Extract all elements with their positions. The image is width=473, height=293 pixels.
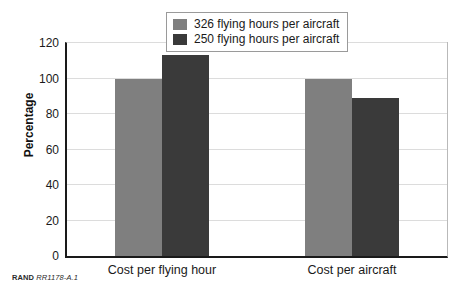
chart-legend: 326 flying hours per aircraft250 flying … — [166, 12, 348, 52]
y-axis-tick-label: 20 — [0, 214, 59, 228]
y-axis-tick-label: 40 — [0, 178, 59, 192]
legend-swatch-icon — [173, 34, 187, 45]
legend-label: 326 flying hours per aircraft — [194, 17, 339, 32]
bar-chart-figure: 020406080100120 Percentage Cost per flyi… — [0, 0, 473, 293]
plot-area — [65, 42, 448, 258]
figure-credit: RAND RR1178-A.1 — [12, 273, 78, 282]
x-axis-category-label: Cost per aircraft — [308, 263, 397, 277]
figure-credit-id: RR1178-A.1 — [36, 273, 78, 282]
legend-swatch-icon — [173, 19, 187, 30]
y-axis-title: Percentage — [22, 70, 36, 180]
y-axis-tick-label: 120 — [0, 36, 59, 50]
bar — [115, 79, 162, 257]
bar — [352, 98, 399, 256]
bar — [162, 55, 209, 256]
legend-entry: 250 flying hours per aircraft — [173, 32, 339, 47]
figure-credit-brand: RAND — [12, 273, 34, 282]
x-axis-category-label: Cost per flying hour — [108, 263, 216, 277]
legend-entry: 326 flying hours per aircraft — [173, 17, 339, 32]
bar — [305, 79, 352, 257]
legend-label: 250 flying hours per aircraft — [194, 32, 339, 47]
y-axis-tick-label: 0 — [0, 249, 59, 263]
